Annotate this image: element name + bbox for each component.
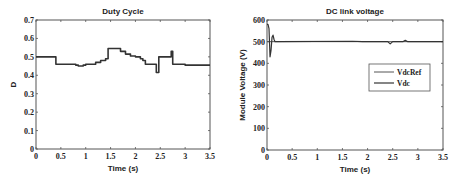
y-axis-label: D bbox=[9, 81, 18, 87]
y-tick-label: 400 bbox=[253, 59, 265, 68]
y-tick-label: 500 bbox=[253, 38, 265, 47]
figure: Duty Cycle00.511.522.533.500.10.20.30.40… bbox=[0, 0, 463, 183]
x-tick-label: 0.5 bbox=[56, 152, 66, 161]
y-tick-label: 0.3 bbox=[24, 90, 34, 99]
y-tick-label: 0.4 bbox=[24, 71, 34, 80]
x-tick-label: 3.5 bbox=[205, 152, 215, 161]
y-tick-label: 100 bbox=[253, 124, 265, 133]
duty-cycle-chart: Duty Cycle00.511.522.533.500.10.20.30.40… bbox=[9, 7, 215, 173]
x-tick-label: 2 bbox=[366, 153, 370, 162]
chart-title: Duty Cycle bbox=[102, 7, 144, 16]
x-tick-label: 2.5 bbox=[155, 152, 165, 161]
x-tick-label: 3 bbox=[183, 152, 187, 161]
legend-label: Vdc bbox=[397, 79, 411, 88]
y-tick-label: 0.6 bbox=[24, 34, 34, 43]
y-tick-label: 0.7 bbox=[24, 16, 34, 25]
x-tick-label: 1 bbox=[315, 153, 319, 162]
y-tick-label: 0.1 bbox=[24, 127, 34, 136]
y-axis-label: Module Voltage (V) bbox=[238, 49, 247, 121]
x-axis-label: Time (s) bbox=[108, 164, 139, 173]
y-tick-label: 600 bbox=[253, 16, 265, 25]
dc-link-voltage-chart: DC link voltage00.511.522.533.5010020030… bbox=[238, 7, 448, 174]
plot-area bbox=[36, 20, 210, 149]
chart-title: DC link voltage bbox=[326, 7, 384, 16]
y-tick-label: 0.2 bbox=[24, 108, 34, 117]
x-tick-label: 3.5 bbox=[438, 153, 448, 162]
x-tick-label: 3 bbox=[416, 153, 420, 162]
x-tick-label: 0.5 bbox=[287, 153, 297, 162]
y-tick-label: 0 bbox=[261, 146, 265, 155]
x-axis-label: Time (s) bbox=[340, 165, 371, 174]
legend-label: VdcRef bbox=[397, 68, 422, 77]
x-tick-label: 1 bbox=[84, 152, 88, 161]
y-tick-label: 200 bbox=[253, 103, 265, 112]
y-tick-label: 300 bbox=[253, 81, 265, 90]
x-tick-label: 1.5 bbox=[106, 152, 116, 161]
x-tick-label: 2 bbox=[133, 152, 137, 161]
x-tick-label: 0 bbox=[34, 152, 38, 161]
x-tick-label: 1.5 bbox=[337, 153, 347, 162]
y-tick-label: 0 bbox=[30, 145, 34, 154]
y-tick-label: 0.5 bbox=[24, 53, 34, 62]
x-tick-label: 2.5 bbox=[388, 153, 398, 162]
x-tick-label: 0 bbox=[265, 153, 269, 162]
